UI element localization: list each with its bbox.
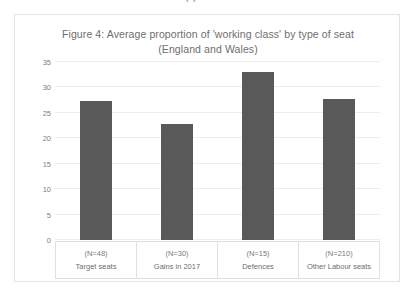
category-cell: (N=30)Gains in 2017 <box>137 241 218 279</box>
chart-title-line-2: (England and Wales) <box>45 42 371 57</box>
category-name: Target seats <box>76 262 117 271</box>
bar-defences <box>242 72 274 240</box>
y-tick-label: 25 <box>43 108 51 117</box>
category-count: (N=210) <box>325 249 352 258</box>
bar-slot <box>136 62 217 240</box>
y-axis: 05101520253035 <box>23 62 51 240</box>
y-tick-label: 15 <box>43 159 51 168</box>
y-tick-label: 20 <box>43 134 51 143</box>
bar-series <box>55 62 380 240</box>
bar-target-seats <box>80 101 112 240</box>
category-cell: (N=48)Target seats <box>56 241 137 279</box>
y-tick-label: 5 <box>47 210 51 219</box>
bar-slot <box>299 62 380 240</box>
y-tick-label: 0 <box>47 236 51 245</box>
chart-title: Figure 4: Average proportion of 'working… <box>45 27 371 57</box>
chart-title-line-1: Figure 4: Average proportion of 'working… <box>45 27 371 42</box>
y-tick-label: 10 <box>43 185 51 194</box>
chart-figure: Figure 4: Average proportion of 'working… <box>14 14 400 282</box>
y-tick-label: 35 <box>43 58 51 67</box>
bar-other-labour-seats <box>323 99 355 240</box>
bar-slot <box>218 62 299 240</box>
category-count: (N=48) <box>84 249 107 258</box>
category-cell: (N=15)Defences <box>218 241 299 279</box>
clipped-text-remnant: ▪ ▪ <box>186 0 226 4</box>
category-cell: (N=210)Other Labour seats <box>299 241 380 279</box>
bar-slot <box>55 62 136 240</box>
category-label-table: (N=48)Target seats(N=30)Gains in 2017(N=… <box>55 241 380 279</box>
bar-gains-in-2017 <box>161 124 193 240</box>
category-count: (N=15) <box>246 249 269 258</box>
category-name: Defences <box>242 262 274 271</box>
category-name: Other Labour seats <box>307 262 371 271</box>
y-tick-label: 30 <box>43 83 51 92</box>
category-count: (N=30) <box>165 249 188 258</box>
category-name: Gains in 2017 <box>154 262 200 271</box>
plot-area <box>55 62 380 240</box>
